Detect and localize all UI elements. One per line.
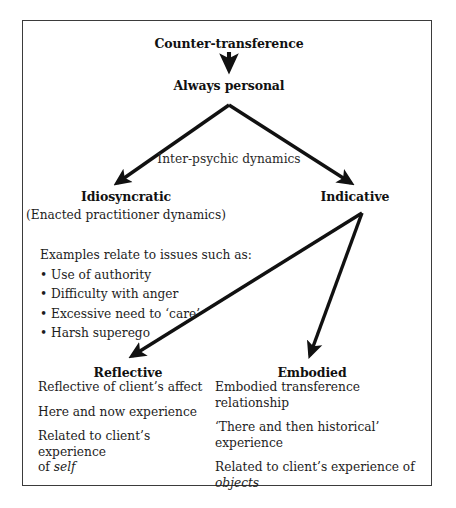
- bullet-label: Harsh superego: [51, 326, 150, 340]
- reflective-line-1: Reflective of client’s affect: [38, 380, 213, 396]
- bullet-label: Excessive need to ‘care’: [51, 307, 200, 321]
- node-counter-transference: Counter-transference: [154, 36, 303, 51]
- list-item: •Difficulty with anger: [40, 285, 252, 305]
- diagram-page: Counter-transference Always personal Int…: [0, 0, 456, 508]
- embodied-line-3a: Related to client’s experience of: [215, 460, 415, 474]
- bullet-label: Use of authority: [51, 268, 151, 282]
- edge-label-inter-psychic-dynamics: Inter-psychic dynamics: [157, 152, 300, 166]
- examples-intro: Examples relate to issues such as:: [40, 246, 252, 266]
- embodied-line-2a: ‘There and then historical’: [215, 420, 379, 434]
- reflective-line-2: Here and now experience: [38, 405, 213, 421]
- embodied-line-1: Embodied transference relationship: [215, 380, 420, 411]
- embodied-line-3-emphasis: objects: [215, 476, 259, 490]
- node-idiosyncratic: Idiosyncratic: [81, 189, 171, 204]
- examples-block: Examples relate to issues such as: •Use …: [40, 246, 252, 344]
- reflective-line-3-emphasis: self: [54, 460, 76, 474]
- bullet-dot-icon: •: [40, 324, 51, 344]
- list-item: •Harsh superego: [40, 324, 252, 344]
- node-reflective: Reflective: [94, 365, 163, 380]
- bullet-label: Difficulty with anger: [51, 287, 178, 301]
- node-indicative: Indicative: [321, 189, 390, 204]
- idiosyncratic-subtitle: (Enacted practitioner dynamics): [26, 208, 226, 222]
- node-embodied: Embodied: [277, 365, 346, 380]
- list-item: •Excessive need to ‘care’: [40, 305, 252, 325]
- bullet-dot-icon: •: [40, 266, 51, 286]
- embodied-line-3: Related to client’s experience of object…: [215, 460, 420, 491]
- reflective-line-3-text: Related to client’s experience: [38, 429, 150, 459]
- reflective-description: Reflective of client’s affect Here and n…: [38, 380, 213, 476]
- list-item: •Use of authority: [40, 266, 252, 286]
- bullet-dot-icon: •: [40, 305, 51, 325]
- embodied-line-2b: experience: [215, 436, 283, 450]
- reflective-line-3: Related to client’s experience of self: [38, 429, 213, 476]
- embodied-description: Embodied transference relationship ‘Ther…: [215, 380, 420, 491]
- embodied-line-2: ‘There and then historical’ experience: [215, 420, 420, 451]
- bullet-dot-icon: •: [40, 285, 51, 305]
- reflective-line-3-prefix: of: [38, 460, 54, 474]
- node-always-personal: Always personal: [173, 78, 284, 93]
